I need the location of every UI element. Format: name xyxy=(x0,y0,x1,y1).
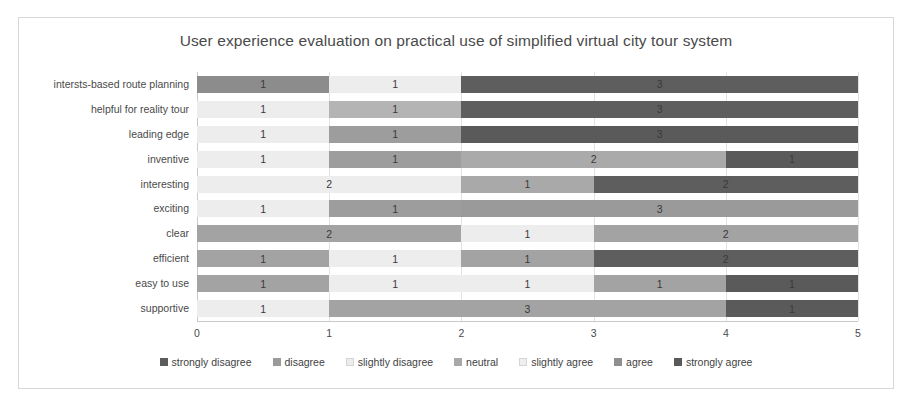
bar-segment[interactable]: 2 xyxy=(594,176,858,193)
bar-segment[interactable]: 1 xyxy=(197,76,329,93)
x-axis-line xyxy=(197,321,858,322)
legend-swatch-icon xyxy=(614,358,622,366)
bar-segment[interactable]: 1 xyxy=(329,275,461,292)
bar-row: exciting113 xyxy=(197,200,858,217)
category-label: interesting xyxy=(19,179,197,190)
bar-segment[interactable]: 2 xyxy=(197,225,461,242)
bar-segment[interactable]: 3 xyxy=(461,200,858,217)
bar-row: clear212 xyxy=(197,225,858,242)
bar-segment[interactable]: 2 xyxy=(594,225,858,242)
bar-segment[interactable]: 1 xyxy=(329,126,461,143)
legend-swatch-icon xyxy=(160,358,168,366)
category-label: supportive xyxy=(19,303,197,314)
bar-segment[interactable]: 1 xyxy=(329,76,461,93)
bar-row: inventive1121 xyxy=(197,151,858,168)
legend-item[interactable]: neutral xyxy=(454,356,498,368)
category-label: efficient xyxy=(19,253,197,264)
bar-row: easy to use11111 xyxy=(197,275,858,292)
category-label: leading edge xyxy=(19,129,197,140)
chart-frame: User experience evaluation on practical … xyxy=(18,17,894,389)
legend-item[interactable]: disagree xyxy=(273,356,325,368)
bar-segment[interactable]: 1 xyxy=(726,300,858,317)
category-label: inventive xyxy=(19,154,197,165)
legend-label: strongly agree xyxy=(686,356,753,368)
legend-label: slightly agree xyxy=(531,356,593,368)
bar-segment[interactable]: 3 xyxy=(461,76,858,93)
bar-segment[interactable]: 1 xyxy=(329,151,461,168)
bar-segment[interactable]: 1 xyxy=(329,200,461,217)
legend-item[interactable]: slightly agree xyxy=(519,356,593,368)
bar-segment[interactable]: 1 xyxy=(726,151,858,168)
bar-segment[interactable]: 1 xyxy=(594,275,726,292)
category-label: intersts-based route planning xyxy=(19,79,197,90)
bar-segment[interactable]: 3 xyxy=(329,300,726,317)
bar-segment[interactable]: 1 xyxy=(197,151,329,168)
legend-label: strongly disagree xyxy=(172,356,252,368)
bar-row: efficient1112 xyxy=(197,250,858,267)
legend-swatch-icon xyxy=(674,358,682,366)
bar-segment[interactable]: 1 xyxy=(461,275,593,292)
category-label: helpful for reality tour xyxy=(19,104,197,115)
x-tick-label: 1 xyxy=(326,327,332,339)
bar-segment[interactable]: 1 xyxy=(726,275,858,292)
bar-row: supportive131 xyxy=(197,300,858,317)
x-tick-label: 4 xyxy=(723,327,729,339)
bar-row: interesting212 xyxy=(197,176,858,193)
bar-segment[interactable]: 1 xyxy=(197,275,329,292)
bar-segment[interactable]: 1 xyxy=(197,126,329,143)
legend-item[interactable]: strongly disagree xyxy=(160,356,252,368)
legend-item[interactable]: slightly disagree xyxy=(346,356,433,368)
bar-segment[interactable]: 1 xyxy=(329,250,461,267)
legend-label: slightly disagree xyxy=(358,356,433,368)
legend-swatch-icon xyxy=(273,358,281,366)
legend-label: agree xyxy=(626,356,653,368)
x-tick-label: 5 xyxy=(855,327,861,339)
bar-segment[interactable]: 1 xyxy=(197,200,329,217)
bar-row: leading edge113 xyxy=(197,126,858,143)
bar-row: helpful for reality tour113 xyxy=(197,101,858,118)
bar-segment[interactable]: 3 xyxy=(461,126,858,143)
plot-area: intersts-based route planning113helpful … xyxy=(197,72,858,321)
x-tick-label: 0 xyxy=(194,327,200,339)
category-label: exciting xyxy=(19,203,197,214)
bar-segment[interactable]: 1 xyxy=(461,176,593,193)
x-axis: 012345 xyxy=(197,321,858,343)
legend-label: disagree xyxy=(285,356,325,368)
legend-swatch-icon xyxy=(454,358,462,366)
bar-row: intersts-based route planning113 xyxy=(197,76,858,93)
legend-label: neutral xyxy=(466,356,498,368)
bar-segment[interactable]: 1 xyxy=(197,300,329,317)
bar-segment[interactable]: 2 xyxy=(197,176,461,193)
category-label: easy to use xyxy=(19,278,197,289)
bar-segment[interactable]: 1 xyxy=(329,101,461,118)
bar-segment[interactable]: 1 xyxy=(197,101,329,118)
chart-title: User experience evaluation on practical … xyxy=(19,32,893,50)
bar-segment[interactable]: 1 xyxy=(197,250,329,267)
bar-segment[interactable]: 1 xyxy=(461,250,593,267)
bar-segment[interactable]: 2 xyxy=(594,250,858,267)
bar-segment[interactable]: 1 xyxy=(461,225,593,242)
bar-segment[interactable]: 3 xyxy=(461,101,858,118)
x-tick-label: 3 xyxy=(591,327,597,339)
gridline xyxy=(858,72,859,321)
legend-swatch-icon xyxy=(346,358,354,366)
chart-legend: strongly disagreedisagreeslightly disagr… xyxy=(19,356,893,368)
legend-item[interactable]: strongly agree xyxy=(674,356,753,368)
bar-segment[interactable]: 2 xyxy=(461,151,725,168)
legend-item[interactable]: agree xyxy=(614,356,653,368)
x-tick-label: 2 xyxy=(458,327,464,339)
category-label: clear xyxy=(19,228,197,239)
legend-swatch-icon xyxy=(519,358,527,366)
